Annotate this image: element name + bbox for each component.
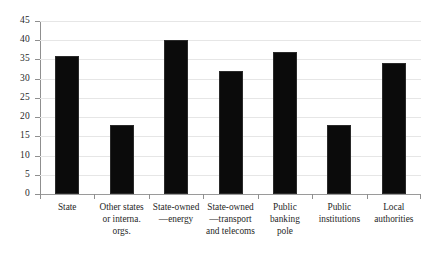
bar: [219, 71, 243, 194]
x-axis-label: Other statesor interna.orgs.: [90, 201, 152, 238]
y-axis-tick-labels: 454035302520151050: [0, 0, 34, 254]
x-tick-mark-0: [40, 194, 41, 199]
x-label-line: Public: [308, 201, 370, 213]
x-label-line: Other states: [90, 201, 152, 213]
x-axis-label: State-owned—transportand telecoms: [199, 201, 261, 238]
bar: [327, 125, 351, 194]
gridline-40: [40, 40, 421, 41]
x-tick-mark-3: [203, 194, 204, 199]
x-tick-mark-4: [258, 194, 259, 199]
x-label-line: pole: [254, 225, 316, 237]
y-tick-label-40: 40: [8, 35, 30, 45]
gridline-35: [40, 59, 421, 60]
x-label-line: State-owned: [199, 201, 261, 213]
y-tick-label-20: 20: [8, 112, 30, 122]
y-tick-mark-20: [35, 117, 40, 118]
x-label-line: institutions: [308, 213, 370, 225]
y-tick-label-0: 0: [8, 189, 30, 199]
y-tick-mark-45: [35, 21, 40, 22]
x-tick-mark-1: [94, 194, 95, 199]
x-label-line: Local: [363, 201, 425, 213]
x-label-line: orgs.: [90, 225, 152, 237]
y-tick-mark-35: [35, 59, 40, 60]
y-tick-label-35: 35: [8, 54, 30, 64]
y-tick-mark-15: [35, 136, 40, 137]
x-axis-label: Publicbankingpole: [254, 201, 316, 238]
y-tick-mark-30: [35, 79, 40, 80]
x-label-line: State: [36, 201, 98, 213]
y-tick-label-45: 45: [8, 16, 30, 26]
x-label-line: banking: [254, 213, 316, 225]
x-tick-mark-5: [312, 194, 313, 199]
y-tick-mark-25: [35, 98, 40, 99]
y-tick-label-5: 5: [8, 170, 30, 180]
y-tick-label-30: 30: [8, 74, 30, 84]
y-tick-mark-5: [35, 175, 40, 176]
x-label-line: authorities: [363, 213, 425, 225]
x-axis-label: State-owned—energy: [145, 201, 207, 225]
x-tick-mark-2: [149, 194, 150, 199]
y-tick-mark-10: [35, 156, 40, 157]
x-tick-mark-7: [420, 194, 421, 199]
x-label-line: and telecoms: [199, 225, 261, 237]
x-label-line: or interna.: [90, 213, 152, 225]
bar-chart-figure: 454035302520151050 StateOther statesor i…: [0, 0, 437, 254]
x-axis-tick-marks: [40, 194, 421, 200]
y-tick-mark-0: [35, 194, 40, 195]
x-label-line: —transport: [199, 213, 261, 225]
x-axis-label: Localauthorities: [363, 201, 425, 225]
y-tick-label-15: 15: [8, 131, 30, 141]
plot-area: [40, 21, 421, 194]
x-axis-label: State: [36, 201, 98, 213]
x-axis-label: Publicinstitutions: [308, 201, 370, 225]
y-tick-mark-40: [35, 40, 40, 41]
x-label-line: —energy: [145, 213, 207, 225]
x-label-line: Public: [254, 201, 316, 213]
bar: [273, 52, 297, 194]
x-tick-mark-6: [367, 194, 368, 199]
bar: [55, 56, 79, 194]
bar: [164, 40, 188, 194]
x-axis-category-labels: StateOther statesor interna.orgs.State-o…: [40, 201, 421, 253]
bar: [382, 63, 406, 194]
bar: [110, 125, 134, 194]
y-tick-label-10: 10: [8, 151, 30, 161]
gridline-45: [40, 21, 421, 22]
y-tick-label-25: 25: [8, 93, 30, 103]
x-label-line: State-owned: [145, 201, 207, 213]
